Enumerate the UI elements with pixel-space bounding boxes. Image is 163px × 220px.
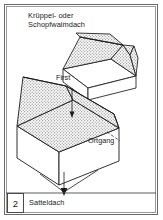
leader-arrow-caption [61,188,68,196]
roof-illustration [6,6,156,213]
label-first-ridge: First [56,74,70,83]
figure-number: 2 [13,198,18,209]
label-ortgang-verge: Ortgang [88,137,114,146]
figure-caption: Satteldach [29,199,64,208]
figure-title: Krüppel- oder Schopfwalmdach [28,11,85,29]
half-hipped-roof-diagram [63,33,138,100]
figure-number-box: 2 [7,193,24,213]
roof-types-figure: Krüppel- oder Schopfwalmdach First Ortga… [0,0,163,220]
